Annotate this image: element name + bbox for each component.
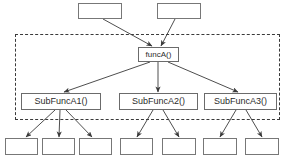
node-subfunca2[interactable]: SubFuncA2() bbox=[119, 93, 198, 110]
leaf-box-7[interactable] bbox=[245, 138, 279, 155]
leaf-box-5[interactable] bbox=[162, 138, 196, 155]
node-subfunca3-label: SubFuncA3() bbox=[214, 97, 267, 106]
edge-subA2-to-leaf5 bbox=[163, 110, 179, 137]
leaf-box-6[interactable] bbox=[203, 138, 237, 155]
edge-subA3-to-leaf7 bbox=[246, 110, 262, 137]
node-subfunca1[interactable]: SubFuncA1() bbox=[21, 93, 101, 110]
edge-subA1-to-leaf1 bbox=[26, 110, 55, 137]
node-subfunca1-label: SubFuncA1() bbox=[34, 97, 87, 106]
edge-subA3-to-leaf6 bbox=[220, 110, 236, 137]
edge-layer bbox=[0, 0, 287, 158]
caller-box-1[interactable] bbox=[78, 3, 122, 19]
edge-funcA-to-subA3 bbox=[168, 62, 238, 92]
leaf-box-4[interactable] bbox=[120, 138, 153, 155]
edge-funcA-to-subA1 bbox=[64, 62, 150, 92]
edge-subA2-to-leaf4 bbox=[137, 110, 153, 137]
leaf-box-3[interactable] bbox=[79, 138, 112, 155]
leaf-box-2[interactable] bbox=[42, 138, 75, 155]
call-graph-diagram: funcA() SubFuncA1() SubFuncA2() SubFuncA… bbox=[0, 0, 287, 158]
edge-caller2-to-funcA bbox=[161, 19, 175, 46]
node-subfunca3[interactable]: SubFuncA3() bbox=[204, 93, 277, 110]
node-funca[interactable]: funcA() bbox=[138, 47, 179, 62]
edges-group bbox=[26, 19, 262, 137]
edge-subA1-to-leaf2 bbox=[59, 110, 60, 137]
node-subfunca2-label: SubFuncA2() bbox=[132, 97, 185, 106]
edge-subA1-to-leaf3 bbox=[66, 110, 92, 137]
edge-caller1-to-funcA bbox=[103, 19, 152, 46]
leaf-box-1[interactable] bbox=[5, 138, 38, 155]
node-funca-label: funcA() bbox=[146, 51, 172, 59]
caller-box-2[interactable] bbox=[157, 3, 201, 19]
